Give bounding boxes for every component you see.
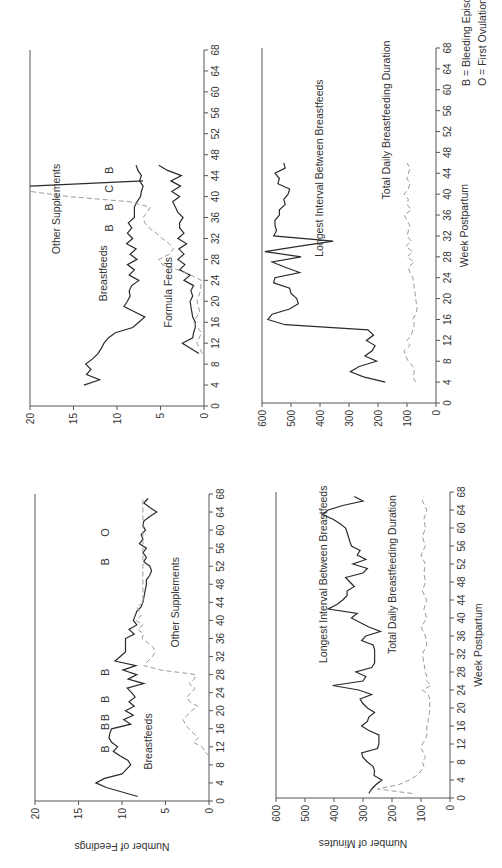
event-marker: B bbox=[103, 167, 115, 174]
x-tick-label: 8 bbox=[215, 762, 226, 768]
x-tick-label: 24 bbox=[456, 684, 467, 696]
x-tick-label: 20 bbox=[210, 295, 221, 307]
event-marker: C bbox=[103, 185, 115, 193]
x-tick-label: 56 bbox=[210, 107, 221, 119]
y-tick-label: 20 bbox=[25, 413, 36, 425]
x-tick-label: 48 bbox=[456, 576, 467, 588]
x-tick-label: 44 bbox=[456, 594, 467, 606]
x-tick-label: 32 bbox=[456, 648, 467, 660]
x-tick-label: 60 bbox=[442, 84, 453, 96]
x-tick-label: 64 bbox=[210, 65, 221, 77]
y-tick-label: 300 bbox=[344, 410, 355, 427]
figure-stage: 0481216202428323640444852566064680510152… bbox=[0, 0, 502, 868]
x-tick-label: 28 bbox=[456, 666, 467, 678]
x-tick-label: 4 bbox=[456, 777, 467, 783]
series-line bbox=[84, 165, 145, 385]
x-axis-title: Week Postpartum bbox=[472, 603, 484, 687]
x-tick-label: 4 bbox=[215, 780, 226, 786]
legend: B = Bleeding Episode O = First Ovulation bbox=[460, 0, 488, 86]
x-tick-label: 16 bbox=[210, 316, 221, 328]
panel-feedings-subject-b: 0481216202428323640444852566064680510152… bbox=[25, 44, 222, 424]
x-tick-label: 36 bbox=[210, 212, 221, 224]
x-tick-label: 48 bbox=[215, 578, 226, 590]
y-tick-label: 5 bbox=[160, 808, 171, 814]
y-axis-title: Number of Feedings bbox=[74, 841, 169, 853]
x-tick-label: 44 bbox=[215, 596, 226, 608]
series-label: Total Daily Breastfeeding Duration bbox=[386, 495, 398, 654]
series-line bbox=[30, 181, 143, 186]
series-label: Other Supplements bbox=[50, 164, 62, 254]
y-tick-label: 600 bbox=[271, 805, 282, 822]
x-tick-label: 28 bbox=[442, 251, 453, 263]
series-line bbox=[404, 163, 417, 382]
x-tick-label: 36 bbox=[215, 632, 226, 644]
x-tick-label: 16 bbox=[442, 313, 453, 325]
figure-canvas: 0481216202428323640444852566064680510152… bbox=[0, 0, 502, 868]
x-tick-label: 48 bbox=[442, 146, 453, 158]
x-tick-label: 24 bbox=[215, 687, 226, 699]
x-tick-label: 64 bbox=[215, 506, 226, 518]
y-tick-label: 500 bbox=[286, 410, 297, 427]
series-label: Breastfeeds bbox=[97, 245, 109, 301]
y-tick-label: 10 bbox=[112, 413, 123, 425]
x-tick-label: 12 bbox=[215, 741, 226, 753]
x-tick-label: 52 bbox=[215, 560, 226, 572]
x-tick-label: 8 bbox=[456, 759, 467, 765]
series-label: Longest Interval Between Breastfeeds bbox=[317, 486, 329, 663]
legend-bleeding: B = Bleeding Episode bbox=[460, 0, 472, 86]
y-tick-label: 0 bbox=[431, 410, 442, 416]
x-tick-label: 40 bbox=[215, 614, 226, 626]
x-tick-label: 44 bbox=[210, 170, 221, 182]
event-marker: B bbox=[99, 558, 111, 565]
x-tick-label: 0 bbox=[456, 795, 467, 801]
x-tick-label: 0 bbox=[210, 403, 221, 409]
x-tick-label: 12 bbox=[442, 334, 453, 346]
x-tick-label: 60 bbox=[210, 86, 221, 98]
x-tick-label: 8 bbox=[442, 358, 453, 364]
event-marker: O bbox=[99, 528, 111, 537]
x-tick-label: 60 bbox=[456, 522, 467, 534]
y-tick-label: 300 bbox=[358, 805, 369, 822]
x-tick-label: 36 bbox=[456, 630, 467, 642]
series-label: Formula Feeds bbox=[162, 257, 174, 328]
y-tick-label: 15 bbox=[68, 413, 79, 425]
y-tick-label: 100 bbox=[402, 410, 413, 427]
x-tick-label: 16 bbox=[215, 723, 226, 735]
x-tick-label: 12 bbox=[456, 738, 467, 750]
y-tick-label: 400 bbox=[329, 805, 340, 822]
series-label: Breastfeeds bbox=[142, 713, 154, 769]
y-tick-label: 600 bbox=[257, 410, 268, 427]
event-marker: B bbox=[99, 745, 111, 752]
y-tick-label: 200 bbox=[387, 805, 398, 822]
y-tick-label: 0 bbox=[445, 805, 456, 811]
x-tick-label: 0 bbox=[442, 400, 453, 406]
x-tick-label: 24 bbox=[442, 272, 453, 284]
y-tick-label: 0 bbox=[199, 413, 210, 419]
x-tick-label: 64 bbox=[442, 63, 453, 75]
series-label: Total Daily Breastfeeding Duration bbox=[380, 40, 392, 199]
x-tick-label: 40 bbox=[456, 612, 467, 624]
y-tick-label: 100 bbox=[416, 805, 427, 822]
x-tick-label: 64 bbox=[456, 504, 467, 516]
event-marker: B bbox=[99, 696, 111, 703]
y-tick-label: 400 bbox=[315, 410, 326, 427]
x-tick-label: 56 bbox=[215, 542, 226, 554]
x-tick-label: 40 bbox=[442, 188, 453, 200]
panel-feedings-subject-a: 0481216202428323640444852566064680510152… bbox=[30, 488, 227, 853]
x-tick-label: 8 bbox=[210, 361, 221, 367]
x-tick-label: 48 bbox=[210, 149, 221, 161]
x-tick-label: 20 bbox=[215, 705, 226, 717]
x-tick-label: 52 bbox=[456, 558, 467, 570]
x-tick-label: 32 bbox=[210, 232, 221, 244]
series-label: Longest Interval Between Breastfeeds bbox=[313, 79, 325, 256]
legend-ovulation: O = First Ovulation bbox=[476, 0, 488, 86]
x-axis-title: Week Postpartum bbox=[458, 184, 470, 268]
series-line bbox=[265, 163, 385, 382]
x-tick-label: 44 bbox=[442, 167, 453, 179]
x-tick-label: 16 bbox=[456, 720, 467, 732]
event-marker: B bbox=[103, 203, 115, 210]
x-tick-label: 20 bbox=[456, 702, 467, 714]
y-tick-label: 10 bbox=[117, 808, 128, 820]
x-tick-label: 0 bbox=[215, 798, 226, 804]
x-tick-label: 28 bbox=[215, 669, 226, 681]
